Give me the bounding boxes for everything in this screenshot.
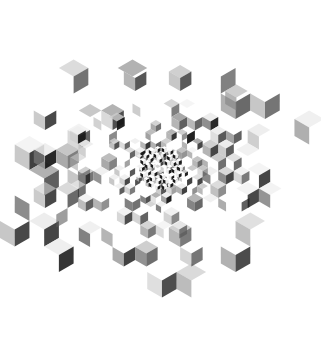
rhombille-tiling-artwork [0, 0, 321, 343]
